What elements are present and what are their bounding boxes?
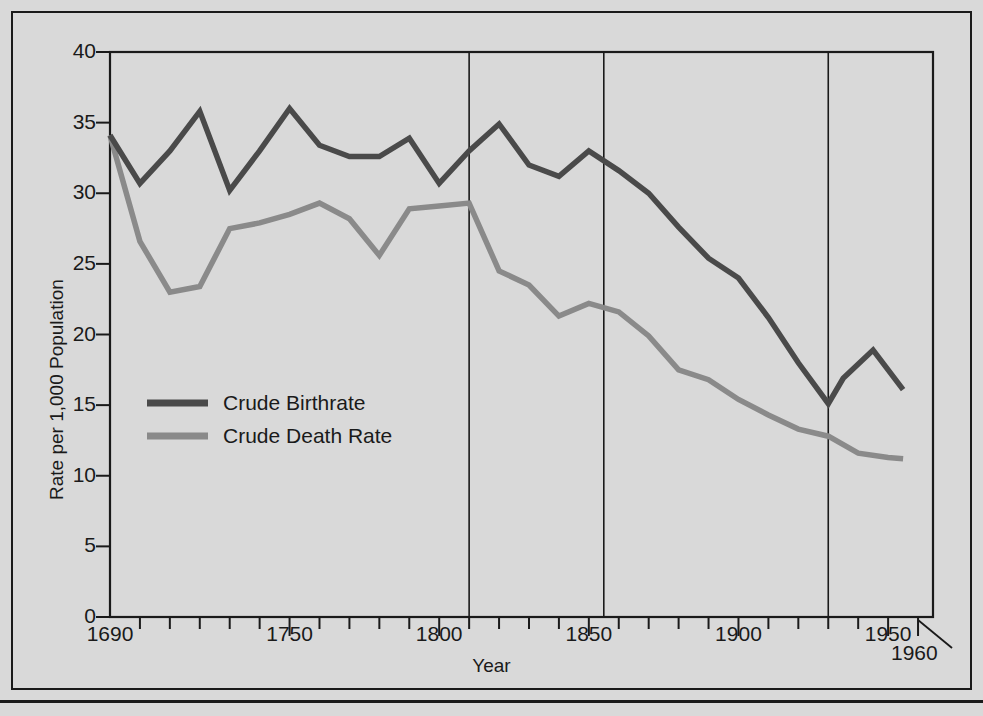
y-axis-title: Rate per 1,000 Population [46, 279, 68, 500]
line-crude-birthrate [110, 109, 903, 404]
x-tick-label-1750: 1750 [245, 622, 335, 646]
x-tick-label-1800: 1800 [394, 622, 484, 646]
x-tick-label-1850: 1850 [544, 622, 634, 646]
figure-canvas: 0510152025303540 16901750180018501900195… [0, 0, 983, 716]
legend-label-crude-death-rate: Crude Death Rate [223, 424, 392, 448]
page-bottom-rule [0, 700, 983, 703]
y-tick-label-30: 30 [52, 180, 96, 204]
y-tick-label-5: 5 [52, 533, 96, 557]
x-tick-label-1900: 1900 [693, 622, 783, 646]
plot-frame [110, 52, 933, 617]
legend-label-crude-birthrate: Crude Birthrate [223, 391, 365, 415]
x-axis-title: Year [0, 655, 983, 677]
y-tick-label-40: 40 [52, 39, 96, 63]
annotation-1960: 1960 [891, 641, 938, 665]
y-tick-label-35: 35 [52, 110, 96, 134]
chart-plot-area [0, 0, 983, 716]
x-tick-label-1690: 1690 [65, 622, 155, 646]
y-tick-label-25: 25 [52, 251, 96, 275]
